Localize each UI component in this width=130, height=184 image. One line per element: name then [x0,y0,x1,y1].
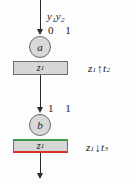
edge-input-to-node-a [40,0,41,30]
variable-y2-base: y [56,10,61,22]
state-node-a: a [29,36,51,58]
annotation-z1-up-t2-target-subscript: 2 [106,67,110,74]
arrowhead-z1-upper-to-node-b [37,107,43,113]
variable-y2-subscript: 2 [61,16,65,24]
resource-box-z1-lower: z1 [13,139,68,153]
annotation-z1-down-t3: z1↓t3 [86,141,108,153]
arrowhead-z1-lower-to-output [37,173,43,179]
resource-box-z1-upper: z1 [13,61,68,75]
state-node-a-label: a [37,42,43,53]
annotation-z1-down-t3-target-subscript: 3 [104,146,108,153]
input-values-label: 0 1 [48,25,75,36]
petri-net-diagram: y1y2 0 1 a z1 z1↑t2 1 1 b z1 z1↓t3 [0,0,130,184]
resource-box-z1-lower-subscript: 1 [41,143,45,150]
up-arrow-icon: ↑ [96,63,103,75]
annotation-z1-up-t2: z1↑t2 [88,62,110,74]
input-variables-label: y1y2 [47,11,64,24]
middle-values-label: 1 1 [48,103,75,114]
state-node-b: b [29,114,51,136]
resource-box-z1-upper-subscript: 1 [41,65,45,72]
state-node-b-label: b [37,120,43,131]
edge-z1-lower-to-output [40,153,41,175]
down-arrow-icon: ↓ [94,142,101,154]
arrowhead-input-to-node-a [37,29,43,35]
edge-z1-upper-to-node-b [40,75,41,109]
